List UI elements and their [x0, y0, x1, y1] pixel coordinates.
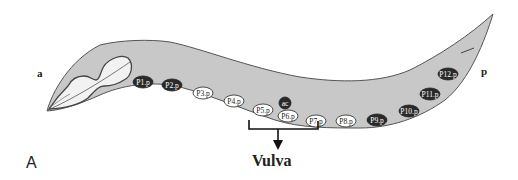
cell-label: P4.p	[227, 97, 241, 106]
worm-diagram: P1.pP2.pP3.pP4.pP5.pacP6.pP7.pP8.pP9.pP1…	[0, 0, 518, 180]
cell-label: P12.p	[439, 70, 457, 79]
cell-label: P6.p	[281, 112, 295, 121]
cell-p6-p: P6.p	[278, 110, 298, 122]
cell-p9-p: P9.p	[367, 114, 387, 126]
cell-p5-p: P5.p	[253, 104, 273, 116]
cell-label: P11.p	[421, 90, 438, 99]
cell-p3-p: P3.p	[193, 87, 213, 99]
cell-label: P8.p	[339, 117, 353, 126]
cell-p4-p: P4.p	[224, 95, 244, 107]
vulva-label: Vulva	[252, 152, 291, 169]
cell-label: P7.p	[309, 117, 323, 126]
cell-label: P2.p	[165, 81, 179, 90]
cell-label: P3.p	[196, 89, 210, 98]
cell-p8-p: P8.p	[336, 115, 356, 127]
cell-p7-p: P7.p	[306, 115, 326, 127]
cell-label: P1.p	[136, 78, 150, 87]
cell-p10-p: P10.p	[399, 105, 419, 117]
cell-label: ac	[282, 99, 289, 108]
cell-p11-p: P11.p	[420, 88, 440, 100]
cell-label: P10.p	[400, 107, 418, 116]
cell-p1-p: P1.p	[133, 76, 153, 88]
cell-label: P5.p	[256, 106, 270, 115]
cell-label: P9.p	[370, 116, 384, 125]
cell-ac: ac	[279, 97, 291, 109]
vulva-arrow-head	[273, 140, 283, 150]
posterior-label: p	[481, 65, 487, 77]
cell-p12-p: P12.p	[438, 68, 458, 80]
panel-label: A	[26, 154, 37, 171]
anterior-label: a	[37, 67, 43, 79]
cell-p2-p: P2.p	[162, 79, 182, 91]
